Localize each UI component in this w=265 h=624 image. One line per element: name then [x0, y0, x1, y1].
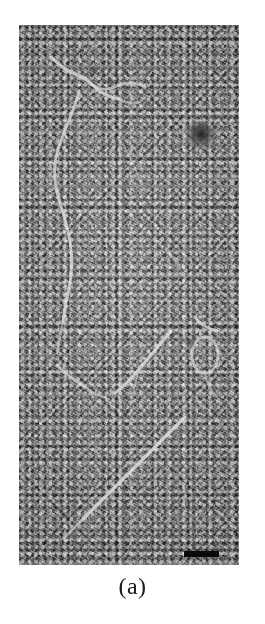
micrograph-grain-fine: [19, 25, 239, 565]
micrograph-grain-dark: [19, 25, 239, 565]
filament-upper-left: [51, 57, 145, 103]
micrograph-vignette: [19, 25, 239, 565]
micrograph-grain-base: [19, 25, 239, 565]
scale-bar: [184, 551, 219, 557]
filament-lower-diagonal: [65, 331, 185, 537]
filament-faint-strands: [89, 145, 185, 455]
filament-left-curved: [54, 91, 79, 353]
filament-mid-left-short: [57, 365, 109, 399]
figure-panel: (a): [0, 0, 265, 624]
micrograph-grain-speckle: [19, 25, 239, 565]
dark-aggregate-blob: [187, 121, 217, 149]
dark-stain-spots: [62, 68, 194, 518]
dark-aggregate-core: [195, 128, 208, 140]
panel-label: (a): [0, 572, 265, 600]
filament-right-loop: [192, 317, 218, 397]
filament-overlay: [19, 25, 239, 565]
electron-micrograph-image: [19, 25, 239, 565]
